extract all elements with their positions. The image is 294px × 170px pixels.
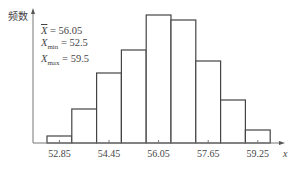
histogram-bar	[196, 61, 221, 143]
x-axis-arrow-icon	[279, 141, 285, 145]
y-axis-arrow-icon	[31, 8, 35, 14]
max-stat: Xmax = 59.5	[41, 53, 89, 69]
x-tick-label: 52.85	[48, 148, 71, 159]
histogram-bar	[146, 15, 171, 143]
histogram-bar	[97, 73, 122, 143]
x-tick-label: 56.05	[147, 148, 170, 159]
histogram-bar	[171, 20, 196, 143]
min-stat: Xmin = 52.5	[41, 37, 89, 53]
histogram-bar	[221, 100, 246, 143]
histogram-bar	[72, 109, 97, 143]
x-axis-label: x	[282, 148, 288, 159]
x-tick-label: 54.45	[98, 148, 121, 159]
x-tick-label: 57.65	[197, 148, 220, 159]
stats-annotation: X = 56.05 Xmin = 52.5 Xmax = 59.5	[41, 25, 89, 69]
mean-stat: X = 56.05	[41, 25, 89, 37]
y-axis-label: 频数	[8, 8, 28, 23]
x-tick-label: 59.25	[247, 148, 270, 159]
histogram-bar	[121, 50, 146, 143]
